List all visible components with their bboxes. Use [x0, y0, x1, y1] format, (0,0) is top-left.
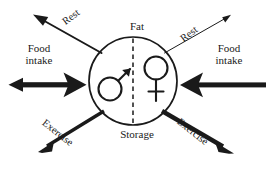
food-intake-left-arrow — [9, 73, 87, 98]
food-intake-left-label-line2: intake — [8, 54, 70, 66]
female-symbol — [145, 57, 168, 102]
food-intake-right-label: Food intake — [198, 42, 260, 67]
male-symbol — [99, 68, 131, 100]
fat-label: Fat — [112, 20, 162, 32]
storage-label: Storage — [104, 128, 170, 140]
food-intake-left-label: Food intake — [8, 42, 70, 67]
fat-storage-diagram: Fat Storage Food intake Food intake Rest… — [0, 0, 266, 169]
food-intake-right-label-line1: Food — [198, 42, 260, 54]
food-intake-left-label-line1: Food — [8, 42, 70, 54]
food-intake-right-label-line2: intake — [198, 54, 260, 66]
food-intake-right-arrow — [180, 73, 266, 98]
